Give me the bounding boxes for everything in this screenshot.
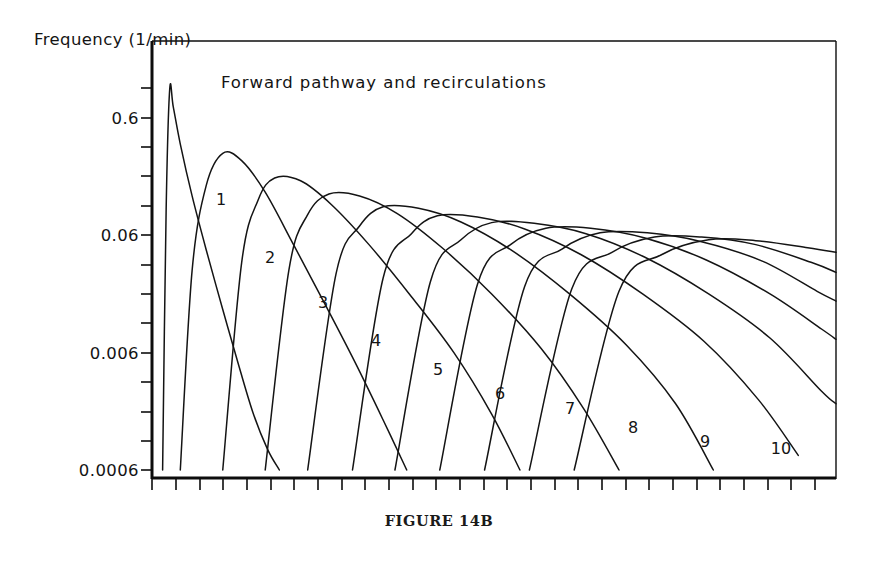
curve-recirculation-5 xyxy=(352,214,798,470)
chart-title: Forward pathway and recirculations xyxy=(221,73,547,92)
curve-label-3: 3 xyxy=(318,293,328,312)
curve-recirculation-6 xyxy=(395,221,836,470)
figure-container: Frequency (1/min) Forward pathway and re… xyxy=(0,0,878,565)
curve-label-1: 1 xyxy=(216,190,226,209)
y-axis-title: Frequency (1/min) xyxy=(34,30,191,49)
curve-recirculation-3 xyxy=(265,192,619,470)
curve-label-7: 7 xyxy=(565,399,575,418)
curve-label-2: 2 xyxy=(265,248,275,267)
y-tick-label-1: 0.06 xyxy=(101,226,139,245)
curve-recirculation-2 xyxy=(223,176,520,470)
plot-frame xyxy=(152,41,836,479)
figure-caption: FIGURE 14B xyxy=(0,512,878,529)
curve-label-10: 10 xyxy=(771,439,791,458)
y-axis-ticks xyxy=(141,88,152,470)
curve-recirculation-1 xyxy=(180,152,406,470)
curve-forward-pathway xyxy=(163,84,280,470)
curve-label-9: 9 xyxy=(700,432,710,451)
y-tick-label-0: 0.6 xyxy=(112,109,139,128)
curve-recirculation-9 xyxy=(529,236,836,470)
curve-label-4: 4 xyxy=(371,331,381,350)
y-tick-label-2: 0.006 xyxy=(90,344,139,363)
x-axis-ticks xyxy=(152,478,815,490)
curve-label-8: 8 xyxy=(628,418,638,437)
y-tick-label-3: 0.0006 xyxy=(79,461,139,480)
curve-label-6: 6 xyxy=(495,384,505,403)
data-curves xyxy=(163,84,836,470)
curve-label-5: 5 xyxy=(433,360,443,379)
